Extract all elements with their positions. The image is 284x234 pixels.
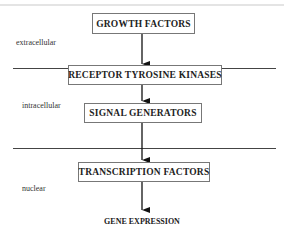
node-transcription-factors: TRANSCRIPTION FACTORS: [78, 162, 210, 182]
node-signal-generators: SIGNAL GENERATORS: [84, 103, 202, 123]
node-label: GROWTH FACTORS: [96, 19, 191, 29]
region-label-intracellular: intracellular: [22, 101, 61, 110]
node-growth-factors: GROWTH FACTORS: [92, 13, 195, 34]
region-label-extracellular: extracellular: [16, 38, 56, 47]
node-receptor-tyrosine-kinases: RECEPTOR TYROSINE KINASES: [68, 65, 222, 85]
node-label: RECEPTOR TYROSINE KINASES: [68, 70, 222, 80]
node-gene-expression: GENE EXPRESSION: [104, 217, 180, 226]
node-label: TRANSCRIPTION FACTORS: [79, 167, 210, 177]
node-label: SIGNAL GENERATORS: [89, 108, 196, 118]
region-label-nuclear: nuclear: [22, 184, 46, 193]
